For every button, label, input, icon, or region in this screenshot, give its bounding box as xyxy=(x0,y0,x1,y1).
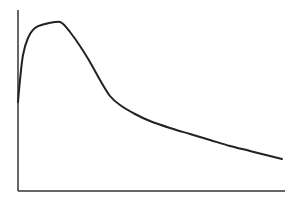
line-chart xyxy=(0,0,302,208)
data-curve xyxy=(18,22,282,159)
